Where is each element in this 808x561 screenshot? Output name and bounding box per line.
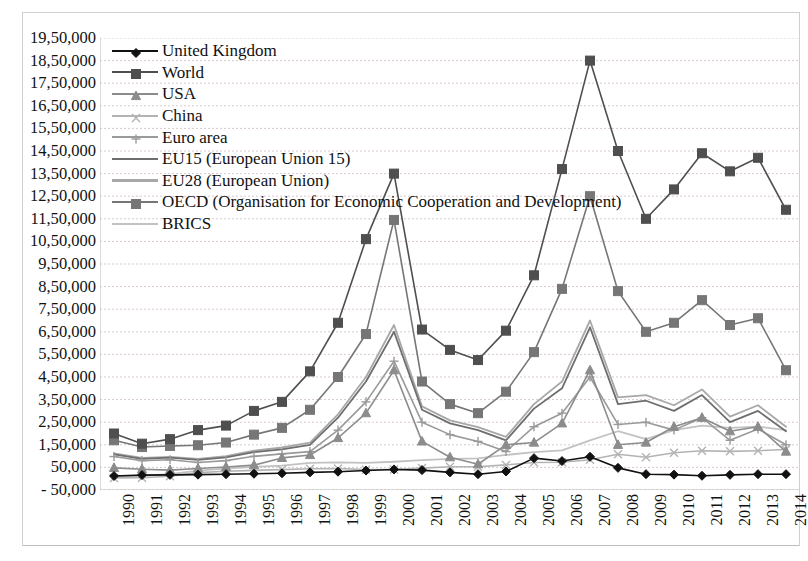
x-axis-tick-labels: 1990199119921993199419951996199719981999… bbox=[100, 494, 800, 560]
marker-square bbox=[446, 345, 455, 354]
marker-diamond bbox=[530, 454, 539, 463]
marker-square bbox=[334, 373, 343, 382]
marker-square bbox=[558, 284, 567, 293]
marker-square bbox=[306, 405, 315, 414]
marker-square bbox=[362, 235, 371, 244]
y-tick-label: 7,50,000 bbox=[4, 301, 96, 318]
x-tick-label: 2008 bbox=[624, 494, 642, 526]
x-tick-label: 2000 bbox=[400, 494, 418, 526]
x-tick-label: 2012 bbox=[736, 494, 754, 526]
x-tick-label: 2002 bbox=[456, 494, 474, 526]
marker-square bbox=[782, 205, 791, 214]
legend-item[interactable]: Euro area bbox=[112, 126, 732, 148]
legend-marker-holder bbox=[129, 46, 143, 60]
y-tick-label: 19,50,000 bbox=[4, 30, 96, 47]
series-euro-area bbox=[110, 357, 791, 467]
x-tick-label: 2001 bbox=[428, 494, 446, 526]
legend-marker-x bbox=[129, 111, 143, 125]
marker-plus bbox=[418, 418, 427, 427]
marker-diamond bbox=[670, 470, 679, 479]
x-tick-label: 2009 bbox=[652, 494, 670, 526]
marker-square bbox=[474, 356, 483, 365]
x-tick-label: 2011 bbox=[708, 494, 726, 525]
legend-marker-triangle bbox=[129, 89, 143, 103]
marker-triangle bbox=[529, 438, 538, 447]
y-tick-label: 1,50,000 bbox=[4, 437, 96, 454]
marker-square bbox=[726, 321, 735, 330]
legend-item[interactable]: USA bbox=[112, 83, 732, 105]
marker-square bbox=[110, 429, 119, 438]
legend-item-label: United Kingdom bbox=[162, 42, 277, 59]
legend-line-swatch bbox=[112, 158, 158, 160]
marker-triangle bbox=[445, 452, 454, 461]
legend-key-icon bbox=[112, 43, 158, 59]
marker-triangle bbox=[131, 91, 140, 100]
y-tick-label: 3,50,000 bbox=[4, 392, 96, 409]
marker-square bbox=[782, 366, 791, 375]
marker-square bbox=[306, 367, 315, 376]
marker-square bbox=[250, 406, 259, 415]
marker-plus bbox=[132, 135, 141, 144]
chart-legend: United KingdomWorldUSAChinaEuro areaEU15… bbox=[112, 40, 732, 234]
x-tick-label: 2007 bbox=[596, 494, 614, 526]
marker-square bbox=[334, 318, 343, 327]
legend-marker-holder bbox=[129, 132, 143, 146]
y-tick-label: 10,50,000 bbox=[4, 233, 96, 250]
marker-diamond bbox=[754, 470, 763, 479]
x-tick-label: 1992 bbox=[176, 494, 194, 526]
marker-triangle bbox=[585, 365, 594, 374]
y-tick-label: 14,50,000 bbox=[4, 143, 96, 160]
legend-line-swatch bbox=[112, 179, 158, 181]
legend-item-label: World bbox=[162, 64, 204, 81]
marker-square bbox=[362, 330, 371, 339]
legend-key-icon bbox=[112, 129, 158, 145]
marker-square bbox=[754, 314, 763, 323]
y-tick-label: 12,50,000 bbox=[4, 188, 96, 205]
legend-marker-square bbox=[129, 67, 143, 81]
legend-key-icon bbox=[112, 194, 158, 210]
y-tick-label: 4,50,000 bbox=[4, 369, 96, 386]
marker-square bbox=[194, 441, 203, 450]
legend-item[interactable]: OECD (Organisation for Economic Cooperat… bbox=[112, 191, 732, 213]
x-tick-label: 2013 bbox=[764, 494, 782, 526]
chart-root: 19,50,00018,50,00017,50,00016,50,00015,5… bbox=[0, 0, 808, 561]
bottom-rule bbox=[23, 545, 799, 546]
legend-item-label: EU15 (European Union 15) bbox=[162, 150, 350, 167]
marker-square bbox=[446, 400, 455, 409]
y-tick-label: 17,50,000 bbox=[4, 75, 96, 92]
marker-square bbox=[670, 318, 679, 327]
legend-key-icon bbox=[112, 86, 158, 102]
y-tick-label: 2,50,000 bbox=[4, 414, 96, 431]
marker-plus bbox=[642, 418, 651, 427]
x-tick-label: 2005 bbox=[540, 494, 558, 526]
legend-item[interactable]: BRICS bbox=[112, 213, 732, 235]
marker-square bbox=[278, 397, 287, 406]
x-tick-label: 2003 bbox=[484, 494, 502, 526]
y-tick-label: 8,50,000 bbox=[4, 279, 96, 296]
marker-plus bbox=[446, 430, 455, 439]
legend-marker-holder bbox=[129, 111, 143, 125]
x-tick-label: 1994 bbox=[232, 494, 250, 526]
legend-item[interactable]: United Kingdom bbox=[112, 40, 732, 62]
legend-key-icon bbox=[112, 172, 158, 188]
y-tick-label: 6,50,000 bbox=[4, 324, 96, 341]
legend-item[interactable]: EU15 (European Union 15) bbox=[112, 148, 732, 170]
marker-diamond bbox=[782, 470, 791, 479]
legend-item-label: Euro area bbox=[162, 129, 228, 146]
legend-item[interactable]: EU28 (European Union) bbox=[112, 170, 732, 192]
x-tick-label: 1991 bbox=[148, 494, 166, 526]
legend-item-label: China bbox=[162, 107, 203, 124]
legend-item[interactable]: World bbox=[112, 62, 732, 84]
marker-square bbox=[418, 377, 427, 386]
marker-square bbox=[418, 325, 427, 334]
marker-square bbox=[502, 326, 511, 335]
x-tick-label: 1998 bbox=[344, 494, 362, 526]
marker-square bbox=[698, 296, 707, 305]
marker-square bbox=[166, 435, 175, 444]
x-tick-label: 1997 bbox=[316, 494, 334, 526]
marker-diamond bbox=[642, 470, 651, 479]
legend-item[interactable]: China bbox=[112, 105, 732, 127]
marker-diamond bbox=[110, 471, 119, 480]
legend-item-label: BRICS bbox=[162, 215, 211, 232]
marker-square bbox=[138, 439, 147, 448]
